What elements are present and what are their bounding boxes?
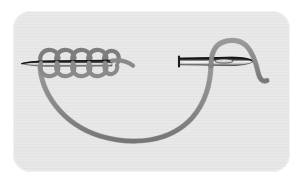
right-needle xyxy=(179,57,254,67)
fabric-swatch-card xyxy=(13,11,290,172)
sewing-needle-illustration xyxy=(0,0,302,183)
illustration-stage: Sewing needle with coiled thread wrap Fr… xyxy=(0,0,302,183)
card-texture xyxy=(13,11,290,172)
left-needle xyxy=(22,60,113,66)
right-needle-eye xyxy=(215,59,233,63)
